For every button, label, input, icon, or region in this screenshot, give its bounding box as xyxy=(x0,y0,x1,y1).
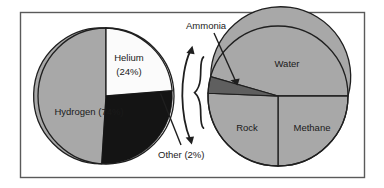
pie-chart-figure: Helium (24%) Hydrogen (74%) Water Methan… xyxy=(0,0,384,188)
right-pie-chart: Water Methane Rock xyxy=(208,7,351,166)
figure-container: Helium (24%) Hydrogen (74%) Water Methan… xyxy=(0,0,384,188)
callout-label-ammonia: Ammonia xyxy=(186,20,227,31)
slice-label-methane: Methane xyxy=(294,122,331,133)
slice-label-rock: Rock xyxy=(236,122,258,133)
slice-label-hydrogen: Hydrogen (74%) xyxy=(54,106,123,117)
slice-label-helium-line1: Helium xyxy=(114,52,144,63)
slice-label-helium-line2: (24%) xyxy=(116,66,141,77)
callout-label-other: Other (2%) xyxy=(158,149,204,160)
left-pie-chart: Helium (24%) Hydrogen (74%) xyxy=(34,28,174,164)
slice-label-water: Water xyxy=(275,58,300,69)
